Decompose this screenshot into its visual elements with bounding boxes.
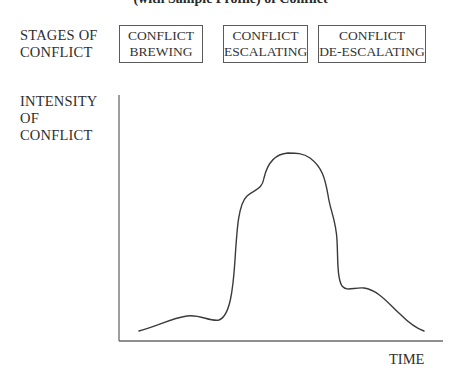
intensity-curve bbox=[139, 153, 424, 331]
x-axis-label: TIME bbox=[389, 351, 424, 368]
conflict-intensity-chart bbox=[0, 0, 461, 378]
